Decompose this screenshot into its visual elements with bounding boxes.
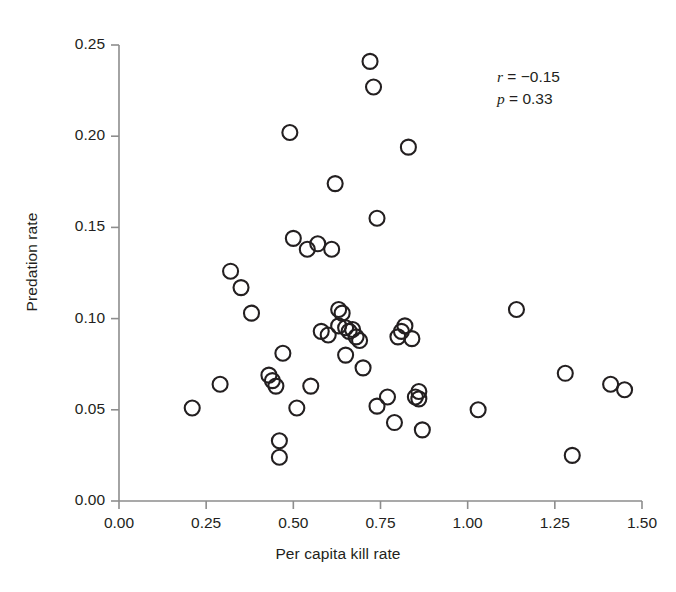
p-symbol: p bbox=[497, 90, 505, 107]
r-value: = −0.15 bbox=[503, 68, 560, 85]
data-point bbox=[509, 302, 524, 317]
y-axis-label-wrapper: Predation rate bbox=[23, 142, 41, 382]
x-tick-label: 0.75 bbox=[346, 514, 416, 532]
x-axis-label: Per capita kill rate bbox=[0, 545, 676, 563]
correlation-line: r = −0.15 bbox=[497, 66, 560, 88]
axes bbox=[111, 45, 642, 509]
pvalue-line: p = 0.33 bbox=[497, 88, 560, 110]
x-tick-label: 0.50 bbox=[258, 514, 328, 532]
y-tick-label: 0.20 bbox=[35, 126, 105, 144]
p-value: = 0.33 bbox=[505, 90, 553, 107]
x-tick-label: 0.25 bbox=[171, 514, 241, 532]
data-point bbox=[272, 433, 287, 448]
data-point bbox=[328, 176, 343, 191]
data-points bbox=[185, 54, 632, 465]
data-point bbox=[272, 450, 287, 465]
x-tick-label: 1.50 bbox=[607, 514, 676, 532]
data-point bbox=[331, 302, 346, 317]
data-point bbox=[185, 400, 200, 415]
data-point bbox=[565, 448, 580, 463]
data-point bbox=[275, 346, 290, 361]
data-point bbox=[370, 211, 385, 226]
data-point bbox=[303, 379, 318, 394]
x-tick-label: 1.25 bbox=[520, 514, 590, 532]
data-point bbox=[558, 366, 573, 381]
data-point bbox=[324, 242, 339, 257]
data-point bbox=[289, 400, 304, 415]
data-point bbox=[282, 125, 297, 140]
data-point bbox=[234, 280, 249, 295]
data-point bbox=[363, 54, 378, 69]
data-point bbox=[603, 377, 618, 392]
data-point bbox=[471, 402, 486, 417]
data-point bbox=[415, 422, 430, 437]
data-point bbox=[286, 231, 301, 246]
data-point bbox=[244, 306, 259, 321]
data-point bbox=[380, 390, 395, 405]
statistics-annotation: r = −0.15 p = 0.33 bbox=[497, 66, 560, 110]
data-point bbox=[404, 331, 419, 346]
scatter-plot-figure: Predation rate Per capita kill rate r = … bbox=[0, 0, 676, 592]
y-tick-label: 0.05 bbox=[35, 400, 105, 418]
data-point bbox=[401, 140, 416, 155]
y-tick-label: 0.10 bbox=[35, 309, 105, 327]
x-tick-label: 1.00 bbox=[433, 514, 503, 532]
data-point bbox=[213, 377, 228, 392]
data-point bbox=[356, 360, 371, 375]
y-tick-label: 0.15 bbox=[35, 217, 105, 235]
x-tick-label: 0.00 bbox=[84, 514, 154, 532]
y-tick-label: 0.25 bbox=[35, 35, 105, 53]
data-point bbox=[338, 348, 353, 363]
data-point bbox=[366, 79, 381, 94]
y-tick-label: 0.00 bbox=[35, 491, 105, 509]
data-point bbox=[617, 382, 632, 397]
data-point bbox=[223, 264, 238, 279]
data-point bbox=[352, 333, 367, 348]
data-point bbox=[387, 415, 402, 430]
